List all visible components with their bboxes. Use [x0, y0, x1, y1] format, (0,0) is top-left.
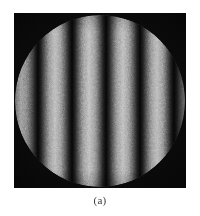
- fringe-phase-offset: [15, 15, 185, 187]
- figure: (a): [0, 0, 200, 216]
- vertical-fringe-pattern: [15, 15, 185, 187]
- circular-aperture: [15, 15, 185, 187]
- figure-caption: (a): [0, 194, 200, 207]
- interferogram-plate: [14, 13, 186, 188]
